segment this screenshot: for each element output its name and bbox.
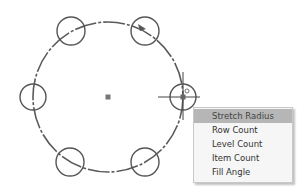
menu-item-level-count[interactable]: Level Count <box>194 137 292 151</box>
snap-marker-icon <box>185 89 189 93</box>
menu-item-row-count[interactable]: Row Count <box>194 123 292 137</box>
menu-item-fill-angle[interactable]: Fill Angle <box>194 165 292 179</box>
grip-context-menu: Stretch Radius Row Count Level Count Ite… <box>193 107 293 183</box>
menu-item-stretch-radius[interactable]: Stretch Radius <box>194 109 292 123</box>
direction-arrow-icon <box>138 24 146 31</box>
menu-item-item-count[interactable]: Item Count <box>194 151 292 165</box>
item-grip[interactable] <box>181 95 186 100</box>
center-grip[interactable] <box>106 95 111 100</box>
